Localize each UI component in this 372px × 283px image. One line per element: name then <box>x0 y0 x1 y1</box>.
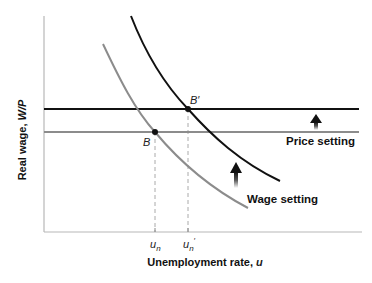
point-b-label: B <box>143 136 150 148</box>
x-tick-un-prime: un′ <box>183 236 196 253</box>
price-setting-label: Price setting <box>286 135 355 147</box>
wage-shift-arrow-icon <box>230 162 242 188</box>
point-b-prime <box>185 106 191 112</box>
x-axis-title: Unemployment rate, u <box>147 256 263 268</box>
x-tick-un: un <box>150 238 161 253</box>
price-shift-arrow-icon <box>310 114 322 130</box>
y-axis-title: Real wage, W/P <box>16 99 28 180</box>
economics-diagram: B B′ Price setting Wage setting un un′ U… <box>0 0 372 283</box>
point-b-prime-label: B′ <box>190 94 200 106</box>
wage-setting-curve-new <box>131 16 280 181</box>
point-b <box>152 129 158 135</box>
wage-setting-curve-old <box>103 44 248 208</box>
wage-setting-label: Wage setting <box>247 193 318 205</box>
